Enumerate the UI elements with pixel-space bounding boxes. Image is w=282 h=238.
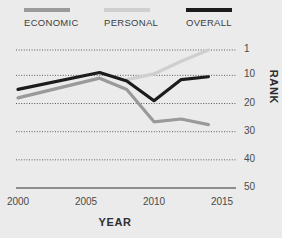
y-tick-label-10: 10 (244, 68, 255, 79)
plot-area (0, 40, 282, 200)
y-tick-label-20: 20 (244, 97, 255, 108)
legend-item-economic[interactable]: ECONOMIC (24, 8, 79, 28)
legend-item-personal[interactable]: PERSONAL (104, 8, 158, 28)
legend-label-personal: PERSONAL (104, 17, 158, 28)
x-axis-title: YEAR (0, 216, 230, 228)
legend-item-overall[interactable]: OVERALL (186, 8, 232, 28)
legend-label-economic: ECONOMIC (24, 17, 79, 28)
y-axis-title: RANK (268, 70, 280, 104)
y-tick-label-50: 50 (244, 181, 255, 192)
legend-swatch-personal (104, 8, 150, 12)
chart-legend: ECONOMIC PERSONAL OVERALL (0, 8, 282, 38)
series-lines (18, 50, 208, 125)
legend-label-overall: OVERALL (186, 17, 232, 28)
gridlines (16, 50, 236, 188)
legend-swatch-economic (24, 8, 70, 12)
y-tick-label-1: 1 (244, 43, 250, 54)
series-line-overall (18, 73, 208, 101)
x-tick-label-2005: 2005 (75, 196, 97, 207)
legend-swatch-overall (186, 8, 232, 12)
y-tick-label-40: 40 (244, 153, 255, 164)
x-tick-label-2000: 2000 (7, 196, 29, 207)
y-tick-label-30: 30 (244, 125, 255, 136)
x-tick-label-2010: 2010 (143, 196, 165, 207)
x-tick-label-2015: 2015 (211, 196, 233, 207)
plot-svg (0, 40, 282, 200)
rank-line-chart: ECONOMIC PERSONAL OVERALL 11020304050 20… (0, 0, 282, 238)
